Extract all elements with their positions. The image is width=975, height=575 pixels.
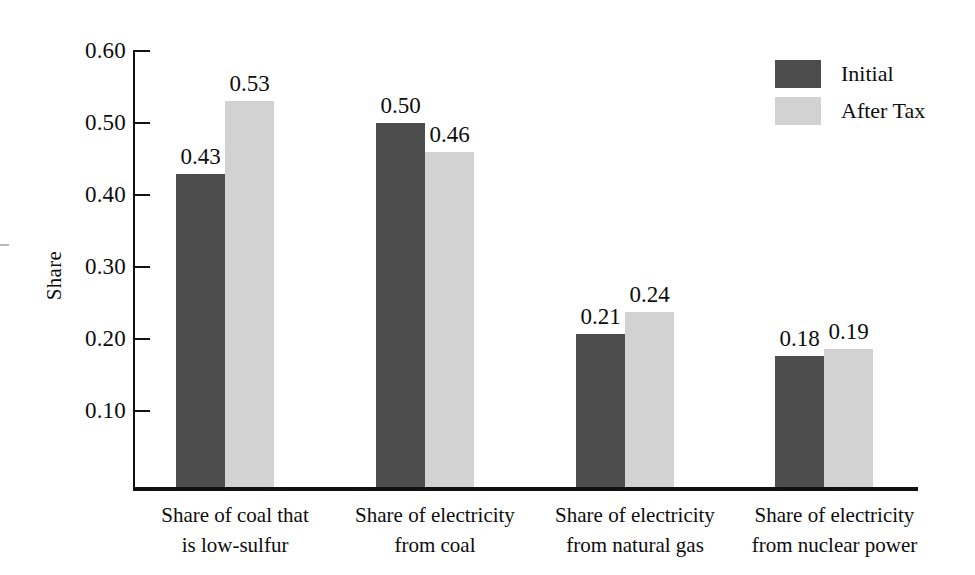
bar-initial-group-1 [176,174,225,487]
bar-initial-value-group-2: 0.50 [365,94,436,117]
x-axis-label-group-1-line-2: is low-sulfur [125,530,345,560]
bar-after-tax-group-2 [425,152,474,487]
x-axis-label-group-2: Share of electricity from coal [320,500,550,560]
legend-swatch-after-tax [775,97,821,125]
bar-after-tax-group-1 [225,101,274,487]
x-axis-label-group-4: Share of electricity from nuclear power [712,500,957,560]
x-axis-label-group-2-line-2: from coal [320,530,550,560]
bar-after-tax-value-group-1: 0.53 [214,72,285,95]
x-axis-label-group-2-line-1: Share of electricity [320,500,550,530]
x-axis-label-group-1: Share of coal that is low-sulfur [125,500,345,560]
x-axis-label-group-4-line-1: Share of electricity [712,500,957,530]
x-axis-label-group-1-line-1: Share of coal that [125,500,345,530]
bar-after-tax-value-group-4: 0.19 [813,320,884,343]
bar-initial-group-3 [576,334,625,487]
plot-area: 0.430.500.210.180.530.460.240.19 [0,0,975,575]
legend-label-after-tax: After Tax [841,95,925,127]
bar-after-tax-value-group-3: 0.24 [614,283,685,306]
bar-initial-group-4 [775,356,824,487]
bar-chart-figure: Share 0.60 0.50 0.40 0.30 0.20 0.10 0.43… [0,0,975,575]
legend-label-initial: Initial [841,58,894,90]
bar-after-tax-value-group-2: 0.46 [414,123,485,146]
x-axis-label-group-4-line-2: from nuclear power [712,530,957,560]
bar-after-tax-group-4 [824,349,873,487]
bar-after-tax-group-3 [625,312,674,487]
legend-swatch-initial [775,60,821,88]
bar-initial-group-2 [376,123,425,487]
